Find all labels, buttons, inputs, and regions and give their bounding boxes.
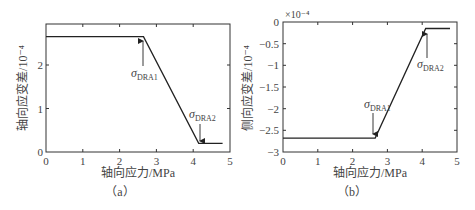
y-tick-label: 1 (38, 103, 44, 115)
y-ticks-b (283, 44, 457, 131)
plot-frame-b (283, 22, 457, 152)
y-axis-label-b: 侧向应变差/10⁻⁴ (240, 45, 255, 131)
x-tick-label: 0 (43, 155, 49, 167)
x-tick-label: 5 (227, 155, 233, 167)
x-tick-label: 0 (280, 155, 286, 167)
y-tick-label: −3 (267, 146, 279, 158)
x-tick-label: 1 (315, 155, 321, 167)
y-tick-label: 0 (274, 16, 280, 28)
y-tick-label: −2.5 (259, 124, 279, 136)
chart-b: 0 1 2 3 4 5 0 −0.5 −1 −1.5 −2 −2.5 −3 ×1… (240, 9, 460, 199)
y-tick-labels-b: 0 −0.5 −1 −1.5 −2 −2.5 −3 (259, 16, 279, 158)
x-ticks-a (83, 24, 193, 152)
y-ticks-a (46, 65, 230, 109)
y-tick-label: −2 (267, 103, 279, 115)
x-ticks-b (318, 22, 422, 152)
y-tick-label: 2 (38, 59, 44, 71)
x-tick-label: 4 (419, 155, 425, 167)
x-tick-label: 1 (80, 155, 86, 167)
figure: 0 1 2 3 4 5 0 1 2 σDRA1 σDRA2 轴向应力/MPa 轴… (0, 0, 475, 210)
y-tick-label: −1.5 (259, 81, 279, 93)
annotation-sigma-dra2-b: σDRA2 (417, 57, 444, 73)
annotation-sigma-dra1-a: σDRA1 (131, 66, 158, 82)
caption-a: （a） (105, 185, 134, 199)
x-tick-label: 5 (454, 155, 460, 167)
series-line-a (46, 37, 223, 144)
y-tick-label: 0 (38, 146, 44, 158)
annotation-sigma-dra1-b: σDRA1 (364, 97, 391, 113)
x-axis-label-b: 轴向应力/MPa (333, 165, 408, 180)
plot-frame-a (46, 24, 230, 152)
series-line-b (283, 29, 450, 139)
annotation-sigma-dra2-a: σDRA2 (189, 107, 216, 123)
x-axis-label-a: 轴向应力/MPa (101, 165, 176, 180)
y-tick-label: −0.5 (259, 38, 279, 50)
chart-a: 0 1 2 3 4 5 0 1 2 σDRA1 σDRA2 轴向应力/MPa 轴… (15, 24, 233, 199)
y-axis-label-a: 轴向应变差/10⁻⁴ (15, 45, 30, 131)
y-tick-labels-a: 0 1 2 (38, 59, 44, 158)
caption-b: （b） (337, 185, 367, 199)
axis-multiplier-b: ×10⁻⁴ (285, 9, 310, 20)
y-tick-label: −1 (267, 59, 279, 71)
x-tick-label: 4 (190, 155, 196, 167)
